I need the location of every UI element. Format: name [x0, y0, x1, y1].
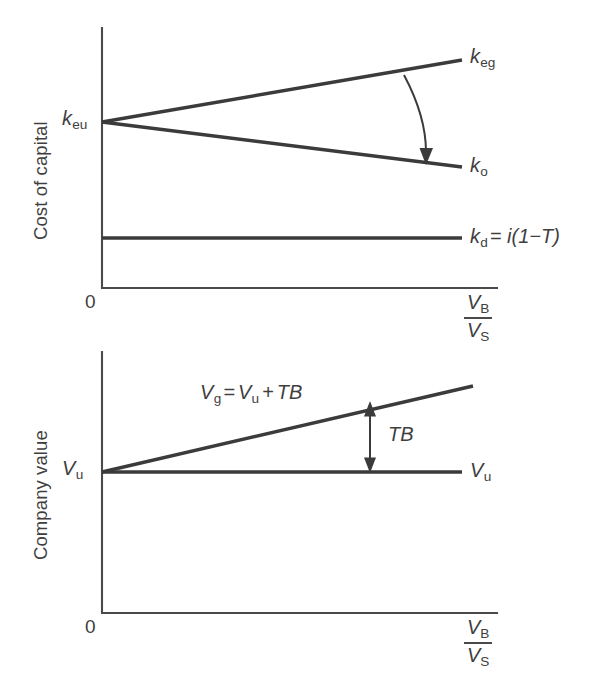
k-o-sub: o: [480, 164, 488, 179]
v-g-base: V: [200, 381, 213, 403]
v-u-sub-eq: u: [252, 391, 260, 406]
v-u-intercept-label: Vu: [62, 458, 83, 481]
cost-of-capital-panel: [102, 28, 497, 288]
v-u-base-eq: V: [238, 381, 251, 403]
k-o-label: ko: [470, 155, 488, 178]
x-num-base-top: V: [467, 291, 480, 313]
axes-top: [102, 28, 497, 288]
x-axis-title-bottom: VB VS: [464, 617, 492, 669]
v-u-intercept-sub: u: [76, 467, 84, 482]
y-axis-title-top: Cost of capital: [32, 121, 51, 240]
x-num-base-bottom: V: [467, 616, 480, 638]
v-g-equals: =: [223, 381, 235, 403]
x-num-sub-top: B: [480, 301, 489, 316]
k-eu-label: keu: [62, 108, 87, 131]
origin-label-bottom: 0: [85, 617, 96, 636]
figure-svg: [0, 0, 600, 698]
k-d-label: kd= i(1−T): [470, 226, 560, 249]
k-d-sub: d: [480, 235, 488, 250]
x-den-base-bottom: V: [467, 644, 480, 666]
v-u-intercept-base: V: [62, 457, 75, 479]
v-u-line-sub: u: [484, 469, 492, 484]
x-num-sub-bottom: B: [480, 626, 489, 641]
k-eu-sub: eu: [72, 117, 87, 132]
x-axis-denominator-top: VS: [464, 319, 492, 344]
tb-gap-label: TB: [388, 424, 414, 444]
v-g-tb: TB: [277, 381, 303, 403]
x-den-base-top: V: [467, 319, 480, 341]
x-axis-fraction-bottom: VB VS: [464, 617, 492, 669]
y-axis-title-bottom: Company value: [32, 430, 51, 560]
x-axis-numerator-bottom: VB: [464, 617, 492, 644]
v-u-line-base: V: [470, 459, 483, 481]
k-o-base: k: [470, 154, 480, 176]
x-den-sub-top: S: [480, 329, 489, 344]
series-line-k-o: [102, 122, 462, 167]
k-d-base: k: [470, 225, 480, 247]
x-den-sub-bottom: S: [480, 654, 489, 669]
v-g-plus: +: [262, 381, 274, 403]
k-d-rest: = i(1−T): [490, 225, 560, 247]
k-eg-sub: eg: [480, 55, 495, 70]
x-axis-numerator-top: VB: [464, 292, 492, 319]
v-u-line-label: Vu: [470, 460, 491, 483]
x-axis-title-top: VB VS: [464, 292, 492, 344]
k-eg-label: keg: [470, 46, 495, 69]
v-g-sub: g: [214, 391, 222, 406]
v-g-equation-label: Vg=Vu+TB: [200, 382, 302, 405]
curved-arrow-shaft: [404, 75, 426, 152]
figure-root: Cost of capital 0 keu keg ko kd= i(1−T) …: [0, 0, 600, 698]
x-axis-fraction-top: VB VS: [464, 292, 492, 344]
k-eu-base: k: [62, 107, 72, 129]
x-axis-denominator-bottom: VS: [464, 644, 492, 669]
origin-label-top: 0: [85, 292, 96, 311]
series-line-k-eg: [102, 60, 462, 122]
k-eg-base: k: [470, 45, 480, 67]
